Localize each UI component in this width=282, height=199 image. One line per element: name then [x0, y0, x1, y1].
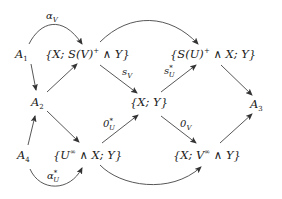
node-suxy-pre: {S(U)	[170, 47, 204, 61]
label-s-v: sV	[122, 67, 132, 77]
node-xsvy: {X; S(V)+ ∧ Y}	[45, 49, 130, 61]
label-s-v-sub: V	[127, 72, 132, 80]
arrow-suxy-to-a3	[221, 65, 252, 95]
node-a3: A3	[250, 99, 263, 111]
arrow-a2-to-xsvy	[47, 64, 77, 92]
node-xvy: {X; V∞ ∧ Y}	[173, 150, 241, 162]
node-xvy-pre: {X; V	[173, 148, 204, 162]
label-alpha-v-sub: V	[53, 16, 58, 24]
node-xy: {X; Y}	[130, 97, 168, 109]
label-zero-v-sub: V	[186, 124, 191, 132]
label-zero-v: 0V	[180, 119, 191, 129]
arrow-xsvy-to-suxy	[100, 20, 198, 44]
node-xvy-post: ∧ Y}	[210, 148, 241, 162]
arrow-xvy-to-a3	[220, 114, 252, 143]
arrow-a4-to-a2	[28, 116, 35, 145]
node-suxy: {S(U)+ ∧ X; Y}	[170, 49, 256, 61]
node-xsvy-pre: {X; S(V)	[45, 47, 93, 61]
node-a1: A1	[15, 49, 28, 61]
node-a4-sub: 4	[25, 156, 29, 164]
node-a1-sub: 1	[23, 55, 27, 63]
arrow-a1-to-a2	[31, 64, 36, 90]
node-a2-sub: 2	[39, 103, 43, 111]
label-alpha-u-star-sub: U	[53, 176, 59, 184]
node-a3-sub: 3	[258, 105, 262, 113]
node-suxy-post: ∧ X; Y}	[210, 47, 256, 61]
arrow-uxy-to-xvy	[100, 165, 201, 185]
label-zero-u-star-sub: U	[109, 124, 115, 132]
arrow-a1-to-xsvy	[29, 24, 82, 44]
node-uxy: {U∞ ∧ X; Y}	[53, 150, 122, 162]
node-uxy-post: ∧ X; Y}	[76, 148, 122, 162]
node-a4: A4	[17, 150, 30, 162]
label-s-u-star-sub: U	[169, 71, 175, 79]
label-alpha-v: αV	[46, 11, 58, 21]
label-alpha-v-base: α	[46, 10, 53, 21]
label-zero-u-star: 0*U	[103, 119, 115, 129]
label-s-u-star: s*U	[164, 66, 175, 76]
arrow-a2-to-uxy	[47, 111, 79, 142]
node-xy-text: {X; Y}	[130, 95, 168, 109]
node-a2: A2	[31, 97, 44, 109]
node-uxy-pre: {U	[53, 148, 70, 162]
label-alpha-u-star: α*U	[47, 171, 59, 181]
node-xsvy-post: ∧ Y}	[99, 47, 130, 61]
